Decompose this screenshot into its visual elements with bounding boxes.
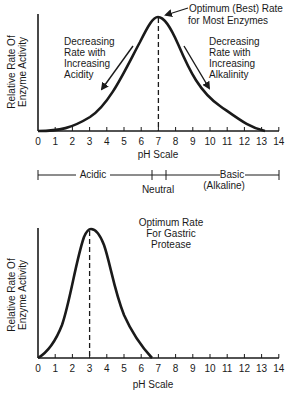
svg-text:4: 4	[104, 363, 110, 374]
svg-text:2: 2	[70, 136, 76, 147]
optimum-arrow-icon	[166, 8, 188, 15]
svg-text:10: 10	[204, 136, 216, 147]
optimum-label-2: for Most Enzymes	[188, 15, 268, 26]
alkalinity-note-2: Rate with	[209, 47, 251, 58]
gastric-optimum-3: Protease	[151, 239, 191, 250]
gastric-optimum-1: Optimum Rate	[139, 217, 204, 228]
svg-text:0: 0	[35, 136, 41, 147]
svg-text:1: 1	[52, 363, 58, 374]
svg-text:13: 13	[256, 363, 268, 374]
bottom-y-label-1: Relative Rate Of	[6, 258, 17, 332]
svg-text:4: 4	[104, 136, 110, 147]
svg-text:7: 7	[156, 363, 162, 374]
bottom-chart: Relative Rate Of Enzyme Activity Optimum…	[6, 217, 285, 390]
svg-text:12: 12	[239, 136, 251, 147]
acidity-note-3: Increasing	[64, 58, 110, 69]
top-y-label-2: Enzyme Activity	[17, 37, 28, 107]
enzyme-ph-diagram: Relative Rate Of Enzyme Activity Optimum…	[0, 0, 287, 405]
bottom-x-label: pH Scale	[133, 379, 174, 390]
neutral-label: Neutral	[142, 184, 174, 195]
svg-text:6: 6	[138, 136, 144, 147]
top-chart: Relative Rate Of Enzyme Activity Optimum…	[6, 3, 285, 160]
svg-text:5: 5	[121, 363, 127, 374]
svg-text:14: 14	[273, 363, 285, 374]
svg-text:1: 1	[52, 136, 58, 147]
top-y-label-1: Relative Rate Of	[6, 35, 17, 109]
svg-text:5: 5	[121, 136, 127, 147]
acidity-note-2: Rate with	[64, 47, 106, 58]
top-tick-labels: 0 1 2 3 4 5 6 7 8 9 10 11 12 13 14	[35, 136, 285, 147]
svg-text:9: 9	[190, 363, 196, 374]
svg-text:14: 14	[273, 136, 285, 147]
svg-text:13: 13	[256, 136, 268, 147]
svg-text:9: 9	[190, 136, 196, 147]
alkalinity-note-1: Decreasing	[209, 36, 260, 47]
bottom-y-label-2: Enzyme Activity	[17, 260, 28, 330]
alkalinity-note-4: Alkalinity	[209, 69, 248, 80]
alkalinity-note-3: Increasing	[209, 58, 255, 69]
svg-text:7: 7	[156, 136, 162, 147]
svg-text:0: 0	[35, 363, 41, 374]
acidity-note-1: Decreasing	[64, 36, 115, 47]
svg-text:8: 8	[173, 136, 179, 147]
bottom-tick-labels: 0 1 2 3 4 5 6 7 8 9 10 11 12 13 14	[35, 363, 285, 374]
bottom-protease-curve	[38, 229, 152, 358]
gastric-optimum-2: For Gastric	[146, 228, 195, 239]
optimum-label-1: Optimum (Best) Rate	[189, 3, 283, 14]
svg-text:10: 10	[204, 363, 216, 374]
alkaline-label: (Alkaline)	[203, 180, 245, 191]
svg-text:2: 2	[70, 363, 76, 374]
basic-label: Basic	[220, 169, 244, 180]
acidic-label: Acidic	[80, 169, 107, 180]
svg-text:8: 8	[173, 363, 179, 374]
svg-text:12: 12	[239, 363, 251, 374]
svg-text:11: 11	[222, 363, 233, 374]
top-x-label: pH Scale	[138, 149, 179, 160]
svg-text:3: 3	[87, 136, 93, 147]
svg-text:3: 3	[87, 363, 93, 374]
svg-text:11: 11	[222, 136, 233, 147]
acidity-note-4: Acidity	[64, 69, 93, 80]
svg-text:6: 6	[138, 363, 144, 374]
